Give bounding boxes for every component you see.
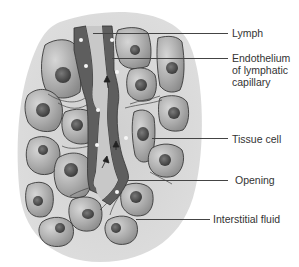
label-endothelium: Endothelium of lymphatic capillary	[232, 52, 290, 88]
leader-tissue-cell	[152, 138, 228, 139]
label-opening: Opening	[235, 174, 275, 186]
label-interstitial-fluid: Interstitial fluid	[213, 213, 280, 225]
label-tissue-cell: Tissue cell	[232, 133, 281, 145]
leader-opening	[128, 180, 228, 181]
leader-lymph	[93, 33, 228, 34]
leader-endothelium	[112, 58, 228, 59]
leader-interstitial-fluid	[136, 219, 210, 220]
label-lymph: Lymph	[232, 27, 263, 39]
